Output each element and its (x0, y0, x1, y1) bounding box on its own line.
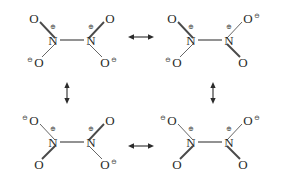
atom-n-right: N (86, 135, 96, 150)
atom-o-upper-right: O (105, 113, 114, 128)
charge-minus-o-lower-left: ⊖ (165, 56, 171, 64)
arrow-head-up (210, 82, 215, 88)
structure-top-right: N N ⊕ ⊕ O O ⊖ O ⊖ O (165, 11, 260, 70)
charge-plus-n-left: ⊕ (50, 23, 56, 31)
charge-plus-n-left: ⊕ (188, 125, 194, 133)
charge-plus-n-right: ⊕ (88, 23, 94, 31)
structure-top-left: N N ⊕ ⊕ O O O ⊖ O ⊖ (27, 11, 117, 70)
atom-n-right: N (86, 33, 96, 48)
atom-o-lower-right: O (100, 55, 109, 70)
charge-minus-o-lower-left: ⊖ (27, 56, 33, 64)
charge-plus-n-left: ⊕ (188, 23, 194, 31)
atom-n-left: N (186, 135, 196, 150)
arrow-bottom (128, 143, 154, 149)
atom-n-right: N (224, 33, 234, 48)
atom-o-lower-left: O (172, 157, 181, 172)
arrow-head-left (128, 34, 134, 40)
charge-plus-n-right: ⊕ (226, 125, 232, 133)
charge-minus-o-lower-right: ⊖ (111, 158, 117, 166)
atom-o-upper-left: O (29, 11, 38, 26)
charge-plus-n-right: ⊕ (88, 125, 94, 133)
arrow-left (64, 82, 69, 104)
atom-o-upper-left: O (167, 11, 176, 26)
arrow-top (128, 34, 154, 40)
charge-plus-n-right: ⊕ (226, 23, 232, 31)
arrow-head-up (64, 82, 69, 88)
arrow-head-right (148, 34, 154, 40)
arrow-head-down (64, 98, 69, 104)
arrow-right (210, 82, 215, 104)
resonance-structures-diagram: N N ⊕ ⊕ O O O ⊖ O ⊖ N N ⊕ ⊕ O O ⊖ O ⊖ O … (0, 0, 281, 186)
structure-bottom-left: N N ⊕ ⊕ O ⊖ O O O ⊖ (22, 113, 117, 172)
atom-o-upper-right: O (243, 113, 252, 128)
arrow-head-down (210, 98, 215, 104)
arrow-head-left (128, 143, 134, 149)
charge-minus-o-upper-left: ⊖ (22, 114, 28, 122)
atom-n-right: N (224, 135, 234, 150)
charge-minus-o-upper-right: ⊖ (254, 114, 260, 122)
atom-n-left: N (48, 33, 58, 48)
atom-o-upper-left: O (167, 113, 176, 128)
atom-o-upper-left: O (29, 113, 38, 128)
atom-n-left: N (48, 135, 58, 150)
atom-o-lower-right: O (100, 157, 109, 172)
charge-minus-o-lower-right: ⊖ (111, 56, 117, 64)
charge-plus-n-left: ⊕ (50, 125, 56, 133)
charge-minus-o-upper-right: ⊖ (254, 12, 260, 20)
atom-o-lower-right: O (238, 55, 247, 70)
atom-o-lower-left: O (34, 55, 43, 70)
structure-bottom-right: N N ⊕ ⊕ O ⊖ O ⊖ O O (160, 113, 260, 172)
charge-minus-o-upper-left: ⊖ (160, 114, 166, 122)
atom-o-lower-left: O (172, 55, 181, 70)
atom-o-lower-left: O (34, 157, 43, 172)
atom-n-left: N (186, 33, 196, 48)
arrow-head-right (148, 143, 154, 149)
atom-o-lower-right: O (238, 157, 247, 172)
atom-o-upper-right: O (105, 11, 114, 26)
atom-o-upper-right: O (243, 11, 252, 26)
